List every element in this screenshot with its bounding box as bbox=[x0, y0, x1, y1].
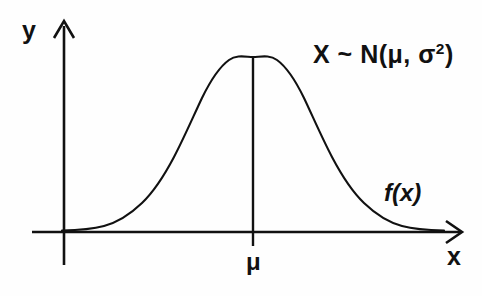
distribution-annotation: X ~ N(μ, σ2) bbox=[313, 42, 454, 67]
y-axis-label: y bbox=[22, 18, 36, 43]
distribution-annotation-close: ) bbox=[445, 40, 454, 68]
x-axis-label: x bbox=[447, 244, 461, 269]
variance-exponent: 2 bbox=[436, 40, 445, 57]
normal-distribution-figure: y x μ X ~ N(μ, σ2) f(x) bbox=[0, 0, 482, 296]
y-axis bbox=[54, 21, 74, 265]
density-function-annotation: f(x) bbox=[384, 181, 421, 205]
distribution-annotation-base: X ~ N(μ, σ bbox=[313, 40, 436, 68]
mean-tick-label: μ bbox=[246, 250, 261, 274]
